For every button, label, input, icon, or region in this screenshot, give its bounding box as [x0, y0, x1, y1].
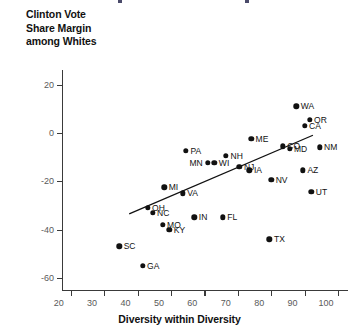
- data-point-mn: [205, 160, 210, 165]
- data-point-label-va: VA: [187, 188, 198, 198]
- data-point-wi: [212, 160, 217, 165]
- data-point-label-nh: NH: [231, 151, 243, 161]
- data-point-label-mi: MI: [169, 182, 178, 192]
- x-tick: [71, 291, 72, 296]
- data-point-label-ky: KY: [174, 225, 185, 235]
- data-point-label-me: ME: [256, 134, 269, 144]
- data-point-sc: [116, 244, 121, 249]
- scatter-chart: Clinton Vote Share Margin among Whites 2…: [0, 0, 359, 335]
- x-tick-label: 40: [114, 298, 138, 308]
- data-point-oh: [145, 205, 150, 210]
- data-point-co: [280, 143, 285, 148]
- data-point-nc: [150, 210, 155, 215]
- data-point-in: [192, 215, 197, 220]
- data-point-mi: [162, 185, 167, 190]
- x-tick: [104, 291, 105, 296]
- data-point-label-az: AZ: [307, 165, 318, 175]
- y-tick: [57, 181, 62, 182]
- x-tick: [338, 291, 339, 296]
- x-tick-label: 100: [314, 298, 338, 308]
- data-point-label-nv: NV: [276, 175, 288, 185]
- data-point-va: [180, 191, 185, 196]
- data-point-tx: [267, 237, 272, 242]
- y-tick: [57, 133, 62, 134]
- x-tick: [305, 291, 306, 296]
- data-point-label-ga: GA: [147, 261, 159, 271]
- y-axis-line: [62, 70, 63, 290]
- x-tick: [271, 291, 272, 296]
- x-tick: [138, 291, 139, 296]
- data-point-nj: [237, 164, 242, 169]
- y-tick: [57, 278, 62, 279]
- data-point-wa: [294, 104, 299, 109]
- data-point-ca: [302, 123, 307, 128]
- data-point-label-in: IN: [199, 212, 208, 222]
- x-tick: [204, 291, 205, 296]
- data-point-label-nc: NC: [157, 208, 169, 218]
- x-tick-label: 60: [180, 298, 204, 308]
- x-tick: [238, 291, 239, 296]
- y-tick-label: -40: [28, 225, 54, 235]
- data-point-az: [300, 168, 305, 173]
- data-point-me: [248, 136, 253, 141]
- y-tick: [57, 85, 62, 86]
- data-point-pa: [183, 148, 188, 153]
- x-tick-label: 20: [47, 298, 71, 308]
- x-tick-label: 90: [281, 298, 305, 308]
- data-point-label-mn: MN: [189, 158, 202, 168]
- x-tick-label: 70: [214, 298, 238, 308]
- x-axis-title: Diversity within Diversity: [0, 313, 359, 325]
- data-point-label-md: MD: [294, 144, 307, 154]
- x-tick-label: 30: [80, 298, 104, 308]
- y-tick-label: -20: [28, 176, 54, 186]
- y-tick-label: 0: [28, 128, 54, 138]
- x-tick-label: 50: [147, 298, 171, 308]
- data-point-nm: [317, 145, 322, 150]
- data-point-ky: [167, 227, 172, 232]
- data-point-label-ut: UT: [316, 187, 327, 197]
- data-point-ut: [309, 189, 314, 194]
- y-tick-label: -60: [28, 273, 54, 283]
- data-point-label-tx: TX: [274, 234, 285, 244]
- data-point-label-wi: WI: [219, 158, 229, 168]
- data-point-mo: [160, 222, 165, 227]
- data-point-label-sc: SC: [124, 241, 136, 251]
- data-point-fl: [220, 215, 225, 220]
- data-point-label-fl: FL: [227, 212, 237, 222]
- data-point-label-ia: IA: [254, 165, 262, 175]
- data-point-label-pa: PA: [190, 146, 201, 156]
- data-point-label-nm: NM: [324, 142, 337, 152]
- data-point-nv: [268, 177, 273, 182]
- y-tick: [57, 230, 62, 231]
- plot-area: 200-20-40-602030405060708090100WAORCANMM…: [0, 0, 359, 335]
- data-point-ga: [140, 263, 145, 268]
- x-tick: [171, 291, 172, 296]
- x-tick-label: 80: [247, 298, 271, 308]
- y-tick-label: 20: [28, 80, 54, 90]
- data-point-ia: [247, 168, 252, 173]
- data-point-label-wa: WA: [301, 101, 314, 111]
- data-point-label-ca: CA: [309, 121, 321, 131]
